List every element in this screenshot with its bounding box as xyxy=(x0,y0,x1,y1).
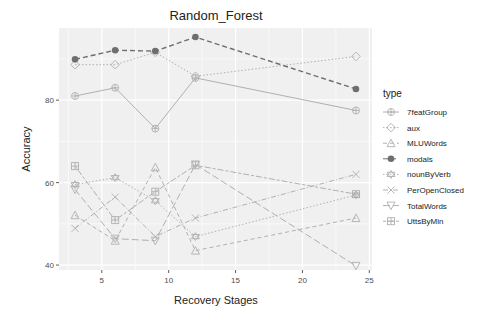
x-axis: 510152025 xyxy=(100,270,375,285)
y-tick-label: 40 xyxy=(45,261,54,270)
legend-label: UttsByMin xyxy=(407,217,443,226)
legend-item: TotalWords xyxy=(383,202,447,211)
legend-title: type xyxy=(383,88,402,99)
y-axis: 406080 xyxy=(45,96,59,270)
x-tick-label: 15 xyxy=(231,276,240,285)
x-tick-label: 5 xyxy=(100,276,105,285)
legend-item: MLUWords xyxy=(383,139,447,148)
chart-title: Random_Forest xyxy=(169,8,263,23)
x-tick-label: 25 xyxy=(365,276,374,285)
legend-item: nounByVerb xyxy=(383,170,451,179)
x-tick-label: 10 xyxy=(164,276,173,285)
filled-circle-icon xyxy=(388,156,395,163)
plot-panel xyxy=(59,28,372,270)
legend-label: nounByVerb xyxy=(407,170,451,179)
legend: type 7featGroupauxMLUWordsmodalsnounByVe… xyxy=(383,88,464,226)
legend-item: PerOpenClosed xyxy=(383,186,464,195)
x-tick-label: 20 xyxy=(298,276,307,285)
legend-label: PerOpenClosed xyxy=(407,186,464,195)
legend-label: MLUWords xyxy=(407,139,447,148)
circle-plus-icon xyxy=(388,109,395,116)
square-plus-icon xyxy=(388,218,395,225)
legend-label: TotalWords xyxy=(407,202,447,211)
legend-label: modals xyxy=(407,155,433,164)
y-tick-label: 80 xyxy=(45,96,54,105)
y-axis-title: Accuracy xyxy=(20,126,32,172)
legend-item: aux xyxy=(383,123,420,132)
legend-label: aux xyxy=(407,124,420,133)
chart: Random_Forest 406080 510152025 Recovery … xyxy=(0,0,483,320)
y-tick-label: 60 xyxy=(45,179,54,188)
x-axis-title: Recovery Stages xyxy=(174,294,258,306)
legend-item: 7featGroup xyxy=(383,108,448,117)
legend-item: UttsByMin xyxy=(383,217,443,226)
legend-label: 7featGroup xyxy=(407,108,448,117)
legend-item: modals xyxy=(383,155,433,164)
panel-background xyxy=(59,28,372,270)
